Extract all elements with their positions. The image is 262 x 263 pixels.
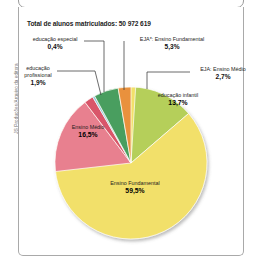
callout-educacao-especial-name: educação especial — [33, 36, 78, 42]
slice-label-educacao-infantil-name: educação infantil — [158, 92, 198, 98]
callout-educacao-profissional: educação profissional 1,9% — [17, 65, 59, 87]
callout-educacao-especial: educação especial 0,4% — [24, 36, 86, 50]
callout-educacao-especial-value: 0,4% — [24, 43, 86, 50]
figure-root: JS Produções/Arquivo da editora e modali… — [0, 0, 262, 263]
leader-line-educacao-especial — [84, 41, 104, 92]
slice-label-ensino-medio-value: 16,5% — [52, 131, 124, 138]
callout-eja-ensino-medio-value: 2,7% — [190, 73, 256, 80]
callout-eja-ensino-fundamental: EJA*: Ensino Fundamental 5,3% — [128, 36, 216, 50]
pie-slices — [55, 87, 207, 239]
slice-label-educacao-infantil: educação infantil 13,7% — [139, 92, 217, 107]
slice-label-educacao-infantil-value: 13,7% — [139, 99, 217, 106]
slice-label-ensino-medio: Ensino Médio 16,5% — [52, 124, 124, 139]
slice-label-ensino-fundamental-value: 59,5% — [88, 187, 182, 194]
leader-line-eja-ensino-medio — [147, 72, 190, 89]
slice-label-ensino-medio-name: Ensino Médio — [72, 124, 105, 130]
callout-eja-ensino-fundamental-name: EJA*: Ensino Fundamental — [140, 36, 204, 42]
callout-educacao-profissional-name-line2: profissional — [24, 72, 51, 78]
callout-eja-ensino-medio-name: EJA: Ensino Médio — [200, 66, 246, 72]
leader-line-educacao-profissional — [57, 71, 101, 95]
callout-eja-ensino-medio: EJA: Ensino Médio 2,7% — [190, 66, 256, 80]
slice-label-ensino-fundamental-name: Ensino Fundamental — [110, 180, 159, 186]
callout-eja-ensino-fundamental-value: 5,3% — [128, 43, 216, 50]
callout-educacao-profissional-name-line1: educação — [26, 65, 49, 71]
callout-educacao-profissional-value: 1,9% — [17, 79, 59, 86]
slice-label-ensino-fundamental: Ensino Fundamental 59,5% — [88, 180, 182, 195]
